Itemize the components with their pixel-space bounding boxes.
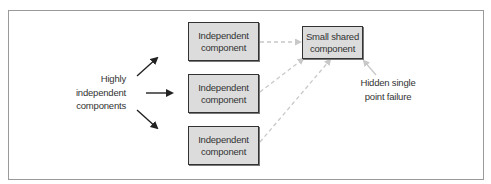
component-label: component	[198, 146, 249, 158]
arrow-down-right-icon	[137, 110, 157, 128]
left-label-line: independent	[60, 86, 126, 100]
shared-label: Small shared	[306, 31, 359, 43]
component-label: Independent	[198, 30, 249, 42]
component-label: component	[198, 42, 249, 54]
independent-component-1: Independent component	[188, 22, 259, 61]
shared-component: Small shared component	[302, 26, 363, 59]
annotation-arrow	[364, 61, 376, 75]
component-label: Independent	[198, 134, 249, 146]
left-label-line: Highly	[60, 72, 126, 86]
component-label: Independent	[198, 82, 249, 94]
left-label: Highly independent components	[60, 72, 126, 113]
arrow-up-right-icon	[137, 58, 157, 76]
annotation-line: point failure	[352, 90, 424, 104]
annotation-line: Hidden single	[352, 76, 424, 90]
independent-component-3: Independent component	[188, 126, 259, 165]
component-label: component	[198, 94, 249, 106]
dashed-arrow-3	[260, 60, 330, 142]
left-label-line: components	[60, 99, 126, 113]
independent-component-2: Independent component	[188, 74, 259, 113]
annotation-label: Hidden single point failure	[352, 76, 424, 103]
shared-label: component	[306, 43, 359, 55]
dashed-arrow-2	[260, 59, 303, 92]
